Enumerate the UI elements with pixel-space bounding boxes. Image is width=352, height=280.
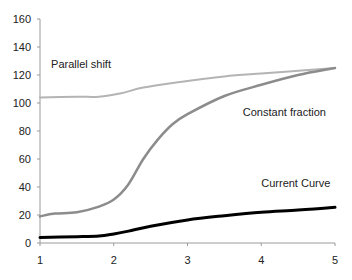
annotation-parallel-shift: Parallel shift: [51, 58, 111, 70]
series-lines: [40, 68, 335, 237]
y-tick-label: 0: [25, 237, 31, 249]
axes: 02040608010012014016012345: [13, 13, 338, 266]
series-line-constant-fraction: [40, 68, 335, 216]
y-tick-label: 140: [13, 41, 31, 53]
x-tick-label: 1: [37, 254, 43, 266]
y-tick-label: 20: [19, 209, 31, 221]
x-tick-label: 5: [332, 254, 338, 266]
x-tick-label: 4: [258, 254, 264, 266]
y-tick-label: 40: [19, 181, 31, 193]
series-line-parallel-shift: [40, 68, 335, 97]
y-tick-label: 60: [19, 153, 31, 165]
y-tick-label: 160: [13, 13, 31, 25]
annotation-constant-fraction: Constant fraction: [243, 106, 326, 118]
x-tick-label: 2: [111, 254, 117, 266]
y-tick-label: 80: [19, 125, 31, 137]
line-chart: 02040608010012014016012345 Parallel shif…: [0, 0, 352, 280]
annotation-current-curve: Current Curve: [261, 177, 330, 189]
y-tick-label: 100: [13, 97, 31, 109]
y-tick-label: 120: [13, 69, 31, 81]
x-tick-label: 3: [184, 254, 190, 266]
